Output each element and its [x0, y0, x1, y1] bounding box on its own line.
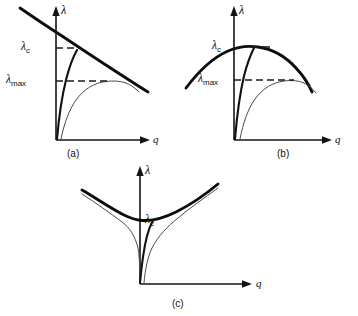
panel-c-right-branch — [144, 188, 218, 283]
panel-a-lambda-c-label: λc — [21, 41, 30, 55]
panel-a-graphic — [0, 0, 175, 150]
panel-c-y-axis-arrow — [136, 166, 143, 176]
panel-a-y-axis-arrow — [52, 6, 59, 16]
panel-b-y-axis-arrow — [230, 6, 237, 16]
panel-b-caption: (b) — [277, 149, 289, 159]
panel-a-caption: (a) — [67, 149, 79, 159]
panel-b-y-axis-label: λ — [239, 4, 244, 16]
panel-b-turning-branch — [240, 81, 316, 139]
panel-a-turning-branch — [61, 81, 139, 139]
panel-c-y-axis-label: λ — [145, 164, 150, 176]
panel-b-steep-branch — [235, 48, 254, 139]
panel-b-x-axis-arrow — [322, 136, 332, 143]
panel-a-lambda-max-label: λmax — [6, 74, 26, 88]
panel-a-steep-branch — [57, 50, 77, 139]
panel-b-lambda-c-label: λc — [212, 40, 221, 54]
panel-c-lambda-c-label: λc — [145, 214, 154, 228]
panel-c-caption: (c) — [172, 299, 184, 309]
panel-a-critical-curve — [20, 8, 148, 92]
panel-c-inner-branch — [140, 221, 153, 284]
panel-a-x-axis-arrow — [140, 136, 150, 143]
panel-c-x-axis-arrow — [242, 280, 252, 287]
panel-a-y-axis-label: λ — [61, 4, 66, 16]
figure-root: λ q λc λmax (a) λ q λc λmax (b) — [0, 0, 358, 316]
panel-c-x-axis-label: q — [256, 278, 262, 289]
panel-a-x-axis-label: q — [153, 134, 159, 145]
panel-b-lambda-max-label: λmax — [198, 73, 218, 87]
panel-b-x-axis-label: q — [335, 134, 341, 145]
